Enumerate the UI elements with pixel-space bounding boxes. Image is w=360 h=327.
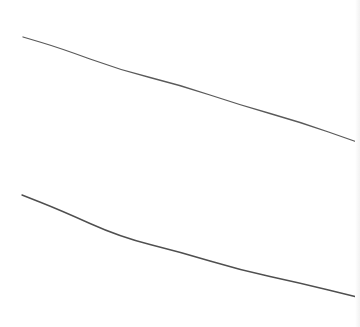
lower-stroke-line (22, 195, 357, 297)
upper-stroke-line (23, 37, 357, 142)
drawing-surface[interactable] (0, 0, 360, 327)
right-edge-band (355, 0, 360, 327)
drawing-canvas[interactable] (0, 0, 360, 327)
